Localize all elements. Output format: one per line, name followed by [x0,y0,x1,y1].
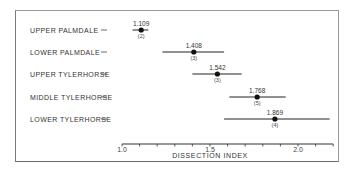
sample-count-label: (3) [214,77,221,83]
mean-dot [272,116,277,121]
x-axis-label: DISSECTION INDEX [172,152,248,159]
data-row: LOWER PALMDALE1.408(3) [30,42,224,61]
sample-count-label: (4) [272,122,279,128]
sample-count-label: (5) [254,100,261,106]
mean-value-label: 1.768 [249,87,266,94]
mean-dot [255,94,260,99]
data-row: LOWER TYLERHORSE1.869(4) [30,109,330,128]
mean-dot [139,27,144,32]
sample-count-label: (3) [190,55,197,61]
dissection-index-chart: UPPER PALMDALE1.109(2)LOWER PALMDALE1.40… [0,0,364,179]
data-row: UPPER TYLERHORSE1.542(3) [30,64,242,83]
data-row: MIDDLE TYLERHORSE1.768(5) [30,87,286,106]
mean-value-label: 1.408 [186,42,203,49]
data-row: UPPER PALMDALE1.109(2) [30,20,150,39]
x-tick-label: 2.0 [293,146,303,153]
mean-value-label: 1.542 [209,64,226,71]
mean-value-label: 1.869 [267,109,284,116]
category-label: LOWER PALMDALE [30,49,100,56]
mean-dot [215,71,220,76]
category-label: UPPER TYLERHORSE [30,71,110,78]
mean-dot [191,49,196,54]
sample-count-label: (2) [138,33,145,39]
mean-value-label: 1.109 [133,20,150,27]
category-label: MIDDLE TYLERHORSE [30,94,113,101]
x-tick-label: 1.0 [117,146,127,153]
category-label: LOWER TYLERHORSE [30,116,111,123]
category-label: UPPER PALMDALE [30,27,99,34]
